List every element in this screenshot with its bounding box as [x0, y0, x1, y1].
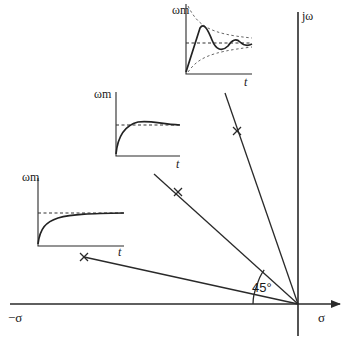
inset-y-label: ωm — [22, 170, 40, 184]
inset-overdamped: ωm t — [22, 170, 124, 259]
ray-high-damping — [80, 253, 298, 304]
inset-y-label: ωm — [94, 87, 112, 101]
inset-x-label: t — [118, 245, 122, 259]
inset-y-label: ωm — [172, 3, 190, 17]
real-axis-negative-label: −σ — [8, 310, 22, 325]
angle-label: 45° — [252, 280, 272, 295]
inset-x-label: t — [244, 75, 248, 89]
ray-low-damping — [225, 93, 298, 304]
inset-underdamped: ωm t — [172, 3, 252, 89]
imag-axis-label: jω — [301, 9, 313, 23]
inset-45deg: ωm t — [94, 87, 180, 171]
inset-x-label: t — [176, 157, 180, 171]
ray-45-deg — [154, 174, 298, 304]
real-axis-positive-label: σ — [318, 310, 325, 325]
s-plane-diagram: jω σ −σ 45° ωm t — [0, 0, 350, 343]
